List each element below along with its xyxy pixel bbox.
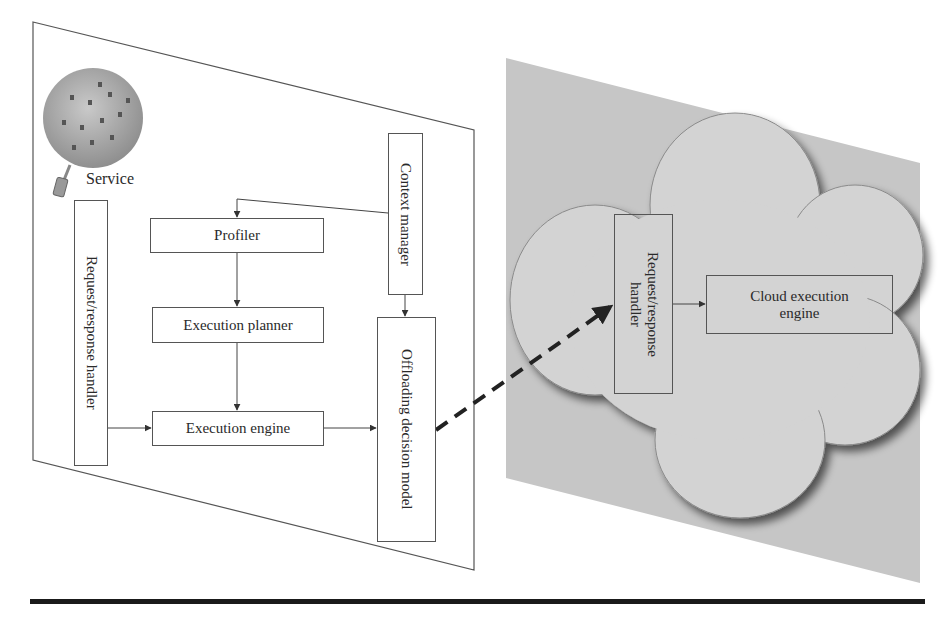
offloading-decision-model-label: Offloading decision model — [398, 345, 415, 515]
cloud-request-response-handler-label: Request/response handler — [627, 234, 661, 374]
execution-planner-box: Execution planner — [152, 307, 324, 343]
execution-engine-box: Execution engine — [152, 411, 324, 446]
execution-planner-label: Execution planner — [183, 317, 293, 334]
profiler-box: Profiler — [150, 218, 324, 253]
cloud-request-response-handler-box: Request/response handler — [614, 214, 673, 394]
execution-engine-label: Execution engine — [186, 420, 291, 437]
context-manager-label: Context manager — [397, 163, 414, 266]
offloading-decision-model-box: Offloading decision model — [377, 317, 436, 542]
profiler-label: Profiler — [214, 227, 260, 244]
context-manager-box: Context manager — [388, 133, 423, 295]
cloud-execution-engine-label: Cloud execution engine — [735, 288, 865, 322]
service-label: Service — [86, 170, 134, 188]
cloud-execution-engine-box: Cloud execution engine — [706, 275, 893, 334]
request-response-handler-box: Request/response handler — [74, 200, 108, 466]
figure-bottom-rule — [30, 599, 925, 604]
request-response-handler-label: Request/response handler — [83, 256, 100, 410]
